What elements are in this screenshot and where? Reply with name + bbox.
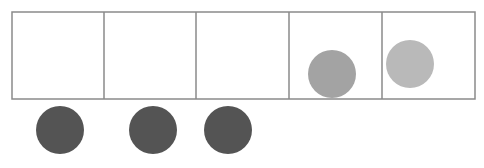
cell5-counter: [386, 40, 434, 88]
cell4-counter: [308, 50, 356, 98]
diagram-canvas: [0, 0, 484, 168]
counters: [36, 40, 434, 154]
below-counter-1: [36, 106, 84, 154]
below-counter-2: [129, 106, 177, 154]
below-counter-3: [204, 106, 252, 154]
